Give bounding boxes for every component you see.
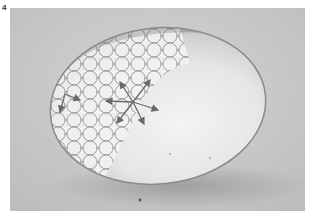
figure-label: 4 [2,3,6,12]
water-droplet-photo [10,8,305,211]
